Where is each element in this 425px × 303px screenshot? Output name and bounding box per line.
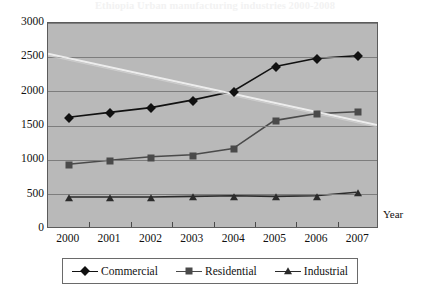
plot-inner [48,23,377,227]
series-line-commercial [69,56,357,117]
x-axis-tickmark [89,222,90,227]
legend-triangle-icon [275,266,301,276]
gridline [48,126,377,127]
y-axis-tick: 2000 [0,85,44,96]
y-axis-tick: 3000 [0,16,44,27]
gridline [48,57,377,58]
legend-label: Industrial [303,265,348,277]
x-axis-tick: 2006 [294,232,338,244]
x-axis-tick: 2004 [211,232,255,244]
x-axis-tick: 2002 [128,232,172,244]
legend-diamond-icon [72,266,98,276]
legend-square-icon [176,266,202,276]
legend-label: Residential [204,265,257,277]
x-axis-tickmark [214,222,215,227]
x-axis-tickmark [255,222,256,227]
y-axis-tick: 0 [0,222,44,233]
y-axis-tick: 500 [0,188,44,199]
y-axis-tick: 1000 [0,153,44,164]
legend-item-residential[interactable]: Residential [176,265,257,277]
x-axis-tick: 2000 [46,232,90,244]
y-axis-tick: 1500 [0,119,44,130]
x-axis-tick: 2005 [253,232,297,244]
gridline [48,23,377,24]
x-axis-tickmark [131,222,132,227]
y-axis-tick: 2500 [0,50,44,61]
x-axis-tick: 2007 [335,232,379,244]
chart-legend: CommercialResidentialIndustrial [62,258,358,284]
legend-item-commercial[interactable]: Commercial [72,265,158,277]
x-axis-tick: 2003 [170,232,214,244]
x-axis-tick-labels: 20002001200220032004200520062007 [47,232,378,252]
gridline [48,194,377,195]
x-axis-tickmark [338,222,339,227]
gridline [48,160,377,161]
x-axis-tickmark [296,222,297,227]
plot-area [47,22,378,228]
x-axis-title: Year [383,208,403,220]
line-chart: 300025002000150010005000 200020012002200… [0,0,425,303]
chart-page: Ethiopia Urban manufacturing industries … [0,0,425,303]
y-axis-tick-labels: 300025002000150010005000 [0,0,44,250]
series-line-residential [69,112,357,165]
x-axis-tickmark [172,222,173,227]
legend-item-industrial[interactable]: Industrial [275,265,348,277]
gridline [48,91,377,92]
x-axis-tick: 2001 [87,232,131,244]
legend-label: Commercial [100,265,158,277]
